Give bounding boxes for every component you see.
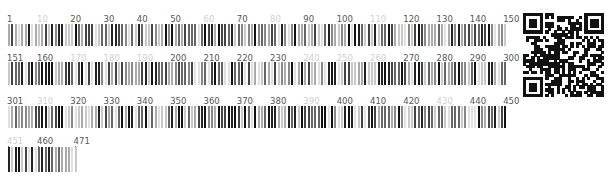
barcode-bar [15,106,17,128]
barcode-bar [158,62,160,85]
barcode-bar [208,106,210,128]
barcode-bar [88,106,90,128]
barcode-bar [68,62,70,85]
barcode-bar [341,106,343,128]
position-label: 80 [270,15,281,24]
barcode-bar [198,24,200,46]
barcode-bar [421,62,423,85]
barcode-bar [231,24,233,46]
barcode-bar [171,106,173,128]
barcode-bar [298,106,300,128]
barcode-bar [494,24,496,46]
barcode-bar [448,24,450,46]
barcode-bar [331,62,333,85]
barcode-bar [381,62,383,85]
barcode-bar [168,106,170,128]
barcode-bar [458,24,460,46]
barcode-bar [418,106,420,128]
barcode-bar [321,24,323,46]
barcode-bar [68,24,70,46]
barcode-bar [248,106,250,128]
barcode-bar [441,24,443,46]
barcode-bar [11,62,13,85]
barcode-bar [38,106,40,128]
barcode-bar [51,147,53,172]
barcode-bar [444,62,446,85]
position-label: 471 [74,137,90,146]
barcode-bar [384,106,386,128]
barcode-bar [121,106,123,128]
barcode-bar [264,62,266,85]
barcode-bar [301,24,303,46]
barcode-bar [91,106,93,128]
barcode-bar [191,62,193,85]
barcode-bar [171,62,173,85]
barcode-bar [111,106,113,128]
barcode-bar [424,24,426,46]
barcode-bar [85,62,87,85]
barcode-bar [15,147,17,172]
barcode-bar [25,147,27,172]
barcode-bar [191,106,193,128]
barcode-bar [78,106,80,128]
barcode-bar [68,106,70,128]
barcode-bar [431,62,433,85]
position-label: 430 [437,97,453,106]
barcode-bar [481,62,483,85]
barcode-bar [231,106,233,128]
barcode-bar [81,106,83,128]
barcode-bar [461,62,463,85]
barcode-bar [151,24,153,46]
barcode-bar [364,24,366,46]
barcode-bar [18,24,20,46]
barcode-bar [444,106,446,128]
barcode-bar [261,62,263,85]
barcode-bar [434,62,436,85]
barcode-bar [45,147,47,172]
barcode-bar [161,62,163,85]
position-label: 100 [337,15,353,24]
barcode-bar [58,62,60,85]
barcode-bar [424,62,426,85]
barcode-bar [248,24,250,46]
barcode-bar [501,24,503,46]
barcode-bar [145,24,147,46]
barcode-bar [308,62,310,85]
barcode-bar [251,24,253,46]
barcode-bar [318,106,320,128]
barcode-bar [238,106,240,128]
barcode-bar [18,147,20,172]
barcode-bar [88,24,90,46]
barcode-bar [488,24,490,46]
barcode-bar [481,24,483,46]
barcode-bar [501,106,503,128]
barcode-bar [408,24,410,46]
position-label: 460 [37,137,53,146]
barcode-bar [45,24,47,46]
barcode-bar [138,62,140,85]
barcode-bar [214,24,216,46]
barcode-bar [271,106,273,128]
barcode-bar [338,106,340,128]
barcode-bar [364,62,366,85]
barcode-bar [491,62,493,85]
barcode-bar [461,106,463,128]
barcode-bar [371,106,373,128]
barcode-bar [414,62,416,85]
barcode-bar [394,62,396,85]
barcode-bar [354,62,356,85]
barcode-bar [281,24,283,46]
position-label: 350 [170,97,186,106]
barcode-bar [438,106,440,128]
barcode-bar [491,106,493,128]
barcode-bar [95,62,97,85]
barcode-bar [101,24,103,46]
barcode-bar [411,106,413,128]
barcode-bar [41,24,43,46]
barcode-bar [51,24,53,46]
barcode-bar [35,24,37,46]
barcode-bar [271,62,273,85]
barcode-bar [471,24,473,46]
barcode-bar [384,24,386,46]
barcode-bar [321,62,323,85]
